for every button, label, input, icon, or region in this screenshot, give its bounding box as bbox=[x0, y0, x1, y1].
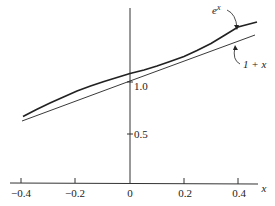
x-tick-label: 0.2 bbox=[178, 187, 192, 199]
series-exp-curve bbox=[23, 22, 257, 117]
y-tick-label: 1.0 bbox=[134, 80, 148, 92]
annotation-exp-label: ex bbox=[212, 3, 221, 16]
series-linear-line bbox=[22, 35, 255, 121]
arrowhead-icon bbox=[233, 45, 238, 50]
x-tick-label: −0.2 bbox=[65, 187, 85, 199]
x-tick-label: 0 bbox=[127, 187, 133, 199]
annotation-linear-label: 1 + x bbox=[243, 58, 266, 70]
x-axis-label: x bbox=[261, 182, 267, 194]
x-tick-label: −0.4 bbox=[11, 187, 31, 199]
x-axis bbox=[10, 183, 258, 184]
chart-canvas: −0.4 −0.2 0 0.2 0.4 x 1.0 0.5 ex 1 + x bbox=[0, 0, 275, 206]
x-tick-label: 0.4 bbox=[232, 187, 246, 199]
y-tick-label: 0.5 bbox=[134, 128, 148, 140]
